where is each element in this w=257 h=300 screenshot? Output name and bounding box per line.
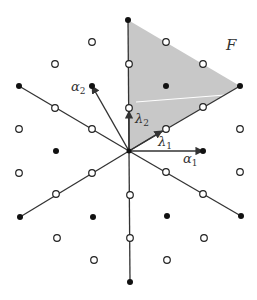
filled-point (90, 214, 96, 220)
open-point (200, 104, 207, 111)
open-point (54, 235, 61, 242)
filled-point (238, 213, 244, 219)
open-point (91, 257, 98, 264)
lambda1-label: λ1 (157, 134, 172, 151)
alpha2-arrow (92, 86, 129, 151)
open-point (164, 257, 171, 264)
open-point (200, 61, 207, 68)
open-point (237, 126, 244, 133)
alpha2-label: α2 (71, 79, 86, 96)
root-line (129, 151, 130, 282)
filled-point (163, 83, 169, 89)
open-point (52, 105, 59, 112)
open-point (16, 170, 23, 177)
filled-point (127, 279, 133, 285)
open-point (163, 126, 170, 133)
filled-point (89, 83, 95, 89)
root-line (19, 86, 129, 151)
open-point (89, 170, 96, 177)
open-point (89, 126, 96, 133)
root-line (20, 151, 129, 217)
g2-weight-diagram: F α2 α1 λ2 λ1 (0, 0, 257, 300)
alpha1-label: α1 (183, 151, 198, 168)
open-point (127, 235, 134, 242)
open-point (126, 105, 133, 112)
filled-point (164, 213, 170, 219)
region-label-f: F (225, 36, 237, 54)
open-point (127, 192, 134, 199)
fundamental-domain-region (128, 20, 240, 151)
filled-point (16, 83, 22, 89)
filled-point (237, 83, 243, 89)
open-point (200, 191, 207, 198)
open-point (52, 61, 59, 68)
open-point (89, 39, 96, 46)
origin-point (127, 149, 132, 154)
filled-point (200, 148, 206, 154)
open-point (16, 126, 23, 133)
filled-point (53, 148, 59, 154)
filled-point (17, 214, 23, 220)
open-point (201, 235, 208, 242)
open-point (163, 169, 170, 176)
open-point (163, 39, 170, 46)
filled-point (125, 17, 131, 23)
open-point (126, 61, 133, 68)
open-point (53, 191, 60, 198)
open-point (237, 169, 244, 176)
